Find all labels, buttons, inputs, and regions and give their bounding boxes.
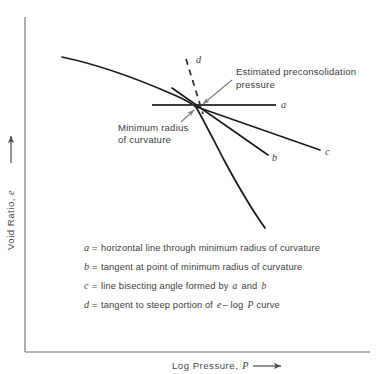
legend-row-c: c = line bisecting angle formed byaandb bbox=[84, 280, 266, 291]
min-radius-leader-arrow-icon bbox=[181, 110, 194, 122]
min-radius-label-line1: Minimum radius bbox=[118, 122, 189, 133]
legend-key-d: d bbox=[84, 299, 90, 310]
curve-label-c: c bbox=[325, 146, 330, 157]
annotation-preconsolidation: Estimated preconsolidation pressure bbox=[203, 66, 356, 104]
legend-row-b: b = tangent at point of minimum radius o… bbox=[84, 261, 302, 272]
legend-key-c: c bbox=[84, 280, 89, 291]
curve-label-b: b bbox=[272, 152, 277, 163]
legend-eq-a: = bbox=[92, 243, 98, 253]
e-log-p-diagram: Void Ratio,e Log Pressure,P a b c d Esti… bbox=[0, 0, 390, 374]
figure-container: Void Ratio,e Log Pressure,P a b c d Esti… bbox=[0, 0, 390, 374]
legend: a = horizontal line through minimum radi… bbox=[84, 242, 320, 310]
legend-eq-d: = bbox=[92, 300, 98, 310]
y-axis-label: Void Ratio,e bbox=[5, 190, 16, 250]
legend-eq-b: = bbox=[92, 262, 98, 272]
legend-row-a: a = horizontal line through minimum radi… bbox=[84, 242, 320, 253]
legend-text-d: tangent to steep portion ofe– logPcurve bbox=[101, 299, 280, 310]
legend-row-d: d = tangent to steep portion ofe– logPcu… bbox=[84, 299, 280, 310]
preconsolidation-label-line1: Estimated preconsolidation bbox=[236, 66, 356, 77]
preconsolidation-leader-arrow-icon bbox=[203, 80, 232, 104]
x-axis-label-group: Log Pressure,P bbox=[172, 360, 281, 371]
y-axis-label-group: Void Ratio,e bbox=[5, 136, 16, 250]
legend-key-a: a bbox=[84, 242, 89, 253]
legend-text-a: horizontal line through minimum radius o… bbox=[101, 243, 320, 253]
annotation-min-radius: Minimum radius of curvature bbox=[118, 110, 194, 145]
curve-label-a: a bbox=[281, 99, 286, 110]
min-radius-label-line2: of curvature bbox=[118, 134, 171, 145]
legend-key-b: b bbox=[84, 261, 89, 272]
legend-text-b: tangent at point of minimum radius of cu… bbox=[101, 262, 302, 272]
curve-label-d: d bbox=[196, 54, 202, 65]
x-axis-label: Log Pressure,P bbox=[172, 360, 249, 371]
legend-text-c: line bisecting angle formed byaandb bbox=[101, 280, 266, 291]
preconsolidation-label-line2: pressure bbox=[236, 79, 275, 90]
legend-eq-c: = bbox=[92, 281, 98, 291]
